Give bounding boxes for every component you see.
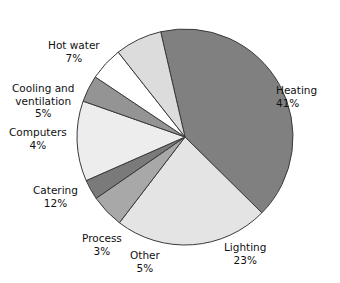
pie-slices-group (77, 29, 293, 245)
slice-label-other: Other 5% (130, 249, 160, 274)
slice-label-process-value: 3% (82, 245, 122, 258)
pie-chart-figure: Heating 41% Lighting 23% Other 5% Proces… (0, 0, 340, 283)
slice-label-hotwater-name: Hot water (48, 39, 100, 52)
slice-label-catering: Catering 12% (33, 184, 78, 209)
slice-label-lighting-value: 23% (224, 254, 266, 267)
slice-label-computers-value: 4% (9, 139, 67, 152)
slice-label-heating-value: 41% (276, 97, 317, 110)
slice-label-catering-name: Catering (33, 184, 78, 197)
slice-label-process: Process 3% (82, 232, 122, 257)
slice-label-computers: Computers 4% (9, 126, 67, 151)
slice-label-catering-value: 12% (33, 197, 78, 210)
slice-label-other-name: Other (130, 249, 160, 262)
slice-label-cooling-and-ventilation: Cooling and ventilation 5% (12, 82, 74, 120)
slice-label-heating-name: Heating (276, 84, 317, 97)
slice-label-lighting-name: Lighting (224, 241, 266, 254)
slice-label-hotwater-value: 7% (48, 52, 100, 65)
slice-label-computers-name: Computers (9, 126, 67, 139)
slice-label-cooling-name-line1: Cooling and (12, 82, 74, 95)
slice-label-hot-water: Hot water 7% (48, 39, 100, 64)
slice-label-cooling-value: 5% (12, 107, 74, 120)
slice-label-lighting: Lighting 23% (224, 241, 266, 266)
slice-label-process-name: Process (82, 232, 122, 245)
slice-label-other-value: 5% (130, 262, 160, 275)
slice-label-cooling-name-line2: ventilation (12, 95, 74, 108)
slice-label-heating: Heating 41% (276, 84, 317, 109)
